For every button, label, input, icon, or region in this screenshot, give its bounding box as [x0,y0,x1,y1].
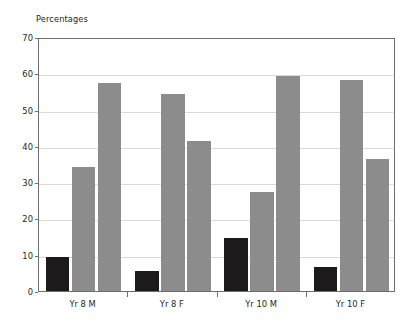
y-axis-tick-label: 0 [3,287,33,297]
bar [46,257,70,291]
bar [72,167,96,291]
x-axis-tick-mark [217,292,218,297]
bar [340,80,364,291]
bar [135,271,159,291]
y-axis-tick-mark [35,111,38,112]
bar [250,192,274,291]
bar [161,94,185,291]
x-axis-tick-mark [127,292,128,297]
y-axis: 706050403020100 [0,38,33,292]
x-axis-tick-label: Yr 10 F [336,299,365,309]
x-axis-tick-label: Yr 8 F [160,299,184,309]
y-axis-tick-label: 70 [3,33,33,43]
y-axis-tick-label: 30 [3,178,33,188]
y-axis-tick-label: 60 [3,69,33,79]
y-axis-tick-mark [35,292,38,293]
bar [98,83,122,291]
y-axis-tick-label: 10 [3,251,33,261]
x-axis-tick-mark [306,292,307,297]
y-axis-tick-mark [35,74,38,75]
bar [187,141,211,291]
bar-chart: Percentages 706050403020100 Yr 8 MYr 8 F… [0,0,403,321]
y-axis-tick-mark [35,219,38,220]
x-axis-tick-label: Yr 10 M [245,299,277,309]
bar [366,159,390,291]
y-axis-tick-label: 20 [3,214,33,224]
y-axis-tick-label: 50 [3,106,33,116]
gridline [39,75,394,76]
x-axis-tick-label: Yr 8 M [69,299,95,309]
y-axis-tick-mark [35,256,38,257]
chart-title: Percentages [36,14,88,24]
y-axis-tick-mark [35,38,38,39]
y-axis-tick-label: 40 [3,142,33,152]
y-axis-tick-mark [35,147,38,148]
y-axis-tick-mark [35,183,38,184]
plot-area [38,38,395,292]
bar [224,238,248,291]
bar [314,267,338,291]
bar [276,76,300,291]
